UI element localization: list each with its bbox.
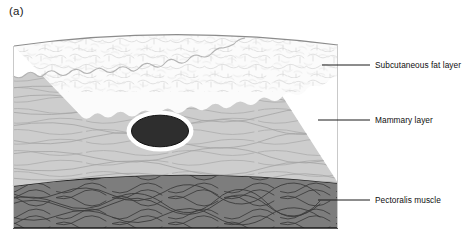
figure-root: (a)	[0, 0, 467, 242]
label-subcutaneous-fat-layer: Subcutaneous fat layer	[375, 61, 461, 69]
label-pectoralis-muscle: Pectoralis muscle	[375, 196, 441, 204]
tumor-lesion-group	[127, 111, 194, 152]
label-mammary-layer: Mammary layer	[375, 116, 433, 124]
adipose-cell-texture	[8, 22, 344, 92]
